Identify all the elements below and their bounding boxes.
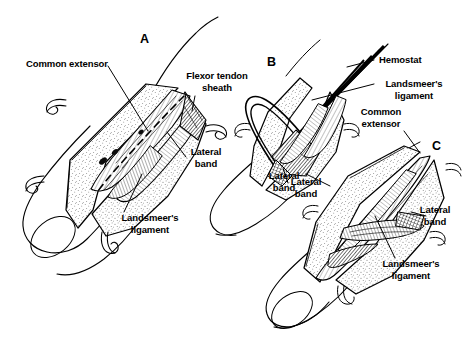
figure-root: A B C Common extensor Flexor tendon shea… bbox=[0, 0, 471, 341]
label-landsmeers-ligament-a: Landsmeer's ligament bbox=[114, 212, 186, 235]
label-landsmeers-ligament-c: Landsmeer's ligament bbox=[373, 258, 449, 281]
anatomy-illustration bbox=[0, 0, 471, 341]
label-lateral-band-c-left: Lateral band bbox=[284, 176, 328, 199]
label-lateral-band-c-right: Lateral band bbox=[413, 204, 457, 227]
label-hemostat-b: Hemostat bbox=[379, 54, 422, 66]
leader-b-hemostat bbox=[347, 60, 374, 67]
label-common-extensor-a: Common extensor bbox=[26, 58, 108, 70]
label-flexor-tendon-sheath-a: Flexor tendon sheath bbox=[178, 70, 256, 93]
panel-letter-b: B bbox=[267, 55, 276, 69]
label-landsmeers-ligament-b: Landsmeer's ligament bbox=[376, 78, 452, 101]
panel-letter-c: C bbox=[432, 139, 441, 153]
label-lateral-band-a: Lateral band bbox=[184, 146, 228, 169]
panel-letter-a: A bbox=[140, 32, 149, 46]
label-common-extensor-b: Common extensor bbox=[348, 106, 414, 129]
